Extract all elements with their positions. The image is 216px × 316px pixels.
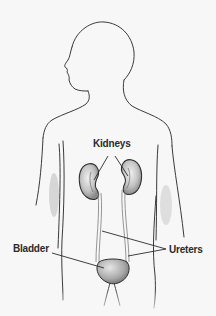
diagram-canvas: Kidneys Bladder Ureters <box>0 0 216 316</box>
left-torso-line <box>62 141 64 300</box>
left-arm-outer <box>36 138 43 205</box>
label-bladder: Bladder <box>13 244 49 254</box>
body-shading <box>49 173 172 225</box>
kidney-left <box>79 164 98 200</box>
right-arm-outer <box>172 146 184 237</box>
body-outline-illustration <box>0 0 216 316</box>
label-ureters: Ureters <box>169 245 203 255</box>
leader-lines <box>52 156 166 268</box>
kidney-right <box>121 160 141 195</box>
ureter-left <box>96 193 99 262</box>
ureters <box>96 190 129 262</box>
label-kidneys: Kidneys <box>93 139 131 149</box>
right-arm-inner <box>156 145 158 240</box>
leader-ureters-right <box>128 249 166 256</box>
head-outline <box>43 22 172 146</box>
